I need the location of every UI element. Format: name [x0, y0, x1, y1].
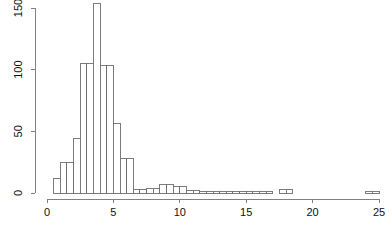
histogram-bar [87, 64, 94, 194]
histogram-bar [213, 192, 220, 193]
y-axis-tick-label: 0 [12, 190, 24, 196]
histogram-bar [133, 189, 140, 193]
histogram-bar [140, 189, 147, 193]
histogram-bar [220, 192, 227, 193]
x-axis-tick-label: 0 [44, 206, 50, 218]
histogram-bar [226, 192, 233, 193]
histogram-bar [279, 189, 286, 193]
histogram-bar [372, 192, 379, 193]
histogram-bar [100, 66, 107, 193]
histogram-bar [206, 192, 213, 193]
histogram-bar [67, 162, 74, 193]
histogram-bar [233, 192, 240, 193]
x-axis-tick-label: 25 [373, 206, 385, 218]
histogram-bar [193, 191, 200, 193]
histogram-bar [266, 192, 273, 193]
histogram-plot-container: 050100150 0510152025 [0, 0, 390, 233]
y-axis-tick-label: 100 [12, 60, 24, 78]
histogram-bar [120, 158, 127, 193]
histogram-bar [259, 192, 266, 193]
histogram-bar [160, 184, 167, 193]
histogram-bar [113, 124, 120, 193]
histogram-bar [153, 188, 160, 193]
histogram-bar [286, 189, 293, 193]
x-axis-tick-label: 5 [110, 206, 116, 218]
x-axis-tick-label: 20 [306, 206, 318, 218]
y-axis-tick-label: 50 [12, 125, 24, 137]
x-axis-tick-label: 10 [174, 206, 186, 218]
x-axis-tick-label: 15 [240, 206, 252, 218]
histogram-bar [127, 158, 134, 193]
histogram-bar [173, 187, 180, 193]
histogram-bar [60, 162, 67, 193]
y-axis-tick-label: 150 [12, 0, 24, 17]
y-axis-tick-labels: 050100150 [12, 0, 24, 196]
histogram-bar [180, 187, 187, 193]
histogram-bar [366, 192, 373, 193]
histogram-bar [167, 184, 174, 193]
histogram-bar [246, 192, 253, 193]
x-axis-tick-labels: 0510152025 [44, 206, 385, 218]
histogram-bar [54, 178, 61, 193]
y-axis-group [31, 8, 35, 193]
histogram-canvas: 050100150 0510152025 [0, 0, 390, 233]
histogram-bar [80, 64, 87, 194]
histogram-bar [240, 192, 247, 193]
histogram-bar [147, 188, 154, 193]
histogram-bar [74, 139, 81, 193]
histogram-bars-group [54, 3, 379, 193]
histogram-bar [186, 191, 193, 193]
histogram-bar [93, 3, 100, 193]
x-axis-group [47, 199, 379, 203]
histogram-bar [107, 66, 114, 193]
histogram-bar [200, 192, 207, 193]
histogram-bar [253, 192, 260, 193]
